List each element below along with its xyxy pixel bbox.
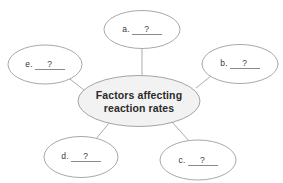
node-d-letter: d. — [61, 151, 69, 161]
center-node-title-line-1: Factors affecting — [96, 89, 182, 102]
node-d-blank[interactable]: ? — [71, 151, 101, 162]
node-c-blank[interactable]: ? — [188, 155, 218, 166]
node-d[interactable]: d.? — [44, 136, 118, 177]
node-e-blank[interactable]: ? — [35, 59, 65, 70]
node-b-label: b.? — [220, 58, 260, 69]
center-node[interactable]: Factors affecting reaction rates — [78, 76, 200, 127]
node-c-letter: c. — [178, 155, 185, 165]
node-b-blank[interactable]: ? — [230, 58, 260, 69]
center-node-title: Factors affecting reaction rates — [96, 89, 182, 114]
node-c[interactable]: c.? — [160, 140, 236, 180]
node-b-letter: b. — [220, 58, 228, 68]
node-c-label: c.? — [178, 155, 217, 166]
node-d-label: d.? — [61, 151, 101, 162]
node-e[interactable]: e.? — [8, 45, 82, 84]
node-a-blank[interactable]: ? — [132, 24, 162, 35]
node-a-label: a.? — [122, 24, 162, 35]
node-e-label: e.? — [25, 59, 65, 70]
node-e-letter: e. — [25, 59, 33, 69]
node-a-letter: a. — [122, 24, 130, 34]
node-b[interactable]: b.? — [202, 44, 278, 83]
concept-map-diagram: a.? b.? c.? d.? e.? Factors affecting re… — [0, 0, 283, 183]
center-node-title-line-2: reaction rates — [96, 102, 182, 115]
node-a[interactable]: a.? — [104, 11, 180, 48]
